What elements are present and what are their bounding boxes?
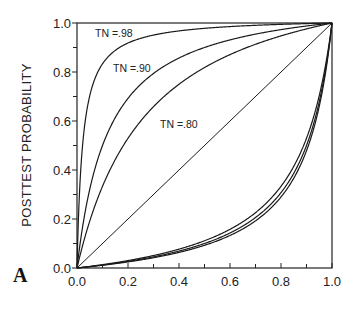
y-tick-label: 0.8 — [53, 65, 71, 80]
y-tick-label: 1.0 — [53, 16, 71, 31]
curves — [77, 23, 332, 268]
posttest-probability-chart: 0.00.20.40.60.81.00.00.20.40.60.81.0 TN … — [0, 0, 360, 312]
y-axis-title: POSTTEST PROBABILITY — [19, 63, 34, 226]
y-tick-label: 0.6 — [53, 114, 71, 129]
x-tick-label: 1.0 — [323, 274, 341, 289]
curve-label-tn: TN =.90 — [113, 62, 151, 74]
x-tick-label: 0.2 — [119, 274, 137, 289]
x-tick-label: 0.6 — [221, 274, 239, 289]
x-tick-label: 0.0 — [68, 274, 86, 289]
y-tick-label: 0.2 — [53, 212, 71, 227]
panel-label: A — [13, 264, 28, 286]
x-tick-label: 0.4 — [170, 274, 188, 289]
curve-label-tn: TN =.80 — [160, 118, 198, 130]
y-tick-label: 0.4 — [53, 163, 71, 178]
curve-identity-no-test — [77, 23, 332, 268]
x-tick-label: 0.8 — [272, 274, 290, 289]
y-tick-label: 0.0 — [53, 261, 71, 276]
curve-label-tn: TN =.98 — [95, 27, 133, 39]
